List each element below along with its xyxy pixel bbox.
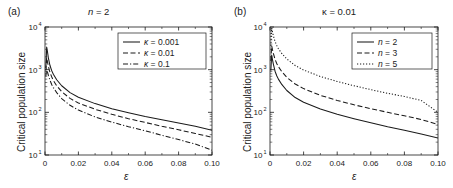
panel-b-plot: 00.020.040.060.080.10101102103104n = 2n …	[226, 0, 453, 188]
panel-a: (a) n = 2 Critical population size ε 00.…	[0, 0, 226, 188]
panel-a-plot: 00.020.040.060.080.10101102103104κ = 0.0…	[0, 0, 226, 188]
y-tick-exponent: 2	[38, 106, 41, 112]
y-tick-exponent: 1	[38, 149, 41, 155]
series-line	[46, 58, 212, 138]
x-tick-label: 0	[43, 159, 48, 168]
x-tick-label: 0.06	[363, 159, 379, 168]
y-tick-exponent: 3	[38, 64, 41, 70]
legend-label: n = 2	[378, 37, 397, 47]
series-line	[46, 69, 212, 150]
y-tick-label: 10	[254, 151, 263, 160]
y-tick-label: 10	[29, 66, 38, 75]
y-tick-label: 10	[29, 23, 38, 32]
x-tick-label: 0.10	[204, 159, 220, 168]
x-tick-label: 0.04	[329, 159, 345, 168]
y-tick-exponent: 2	[263, 106, 266, 112]
x-tick-label: 0.06	[137, 159, 153, 168]
legend-label: κ = 0.001	[144, 37, 179, 47]
legend-label: κ = 0.1	[144, 59, 170, 69]
x-tick-label: 0.02	[296, 159, 312, 168]
y-tick-exponent: 1	[263, 149, 266, 155]
legend-label: n = 5	[378, 59, 397, 69]
y-tick-label: 10	[254, 66, 263, 75]
x-tick-label: 0.04	[104, 159, 120, 168]
y-tick-exponent: 3	[263, 64, 266, 70]
y-tick-exponent: 4	[38, 21, 41, 27]
y-tick-label: 10	[29, 151, 38, 160]
x-tick-label: 0.02	[71, 159, 87, 168]
y-tick-label: 10	[29, 108, 38, 117]
x-tick-label: 0	[268, 159, 273, 168]
x-tick-label: 0.08	[397, 159, 413, 168]
x-tick-label: 0.10	[430, 159, 446, 168]
x-tick-label: 0.08	[171, 159, 187, 168]
y-tick-exponent: 4	[263, 21, 266, 27]
y-tick-label: 10	[254, 108, 263, 117]
legend-label: n = 3	[378, 48, 397, 58]
figure-container: (a) n = 2 Critical population size ε 00.…	[0, 0, 453, 188]
y-tick-label: 10	[254, 23, 263, 32]
panel-b: (b) κ = 0.01 Critical population size ε …	[226, 0, 453, 188]
legend-label: κ = 0.01	[144, 48, 175, 58]
